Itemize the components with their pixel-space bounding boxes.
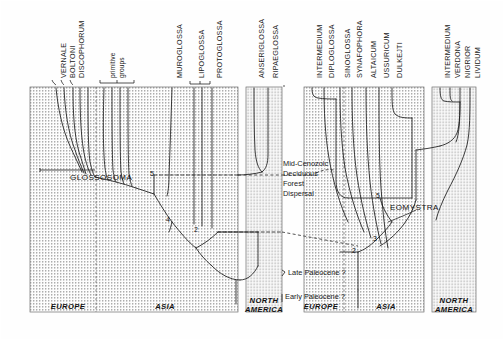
tip-label-discophorum: DISCOPHORUM bbox=[78, 21, 85, 78]
region-label-left-north-america-line1: NORTH bbox=[239, 296, 289, 305]
tip-label-primitive-groups-line2: groups bbox=[119, 57, 126, 78]
tip-label-protoglossa: PROTOGLOSSA bbox=[216, 20, 223, 78]
tip-label-altaicum: ALTAICUM bbox=[370, 41, 377, 78]
bracket-discophorum bbox=[70, 80, 73, 85]
taxon-name-eomystra: EOMYSTRA bbox=[390, 203, 439, 212]
tip-label-primitive-groups-line1: primitive bbox=[110, 53, 117, 78]
left-panel-group bbox=[30, 87, 282, 312]
node-number-left-2: 2 bbox=[194, 226, 198, 233]
tip-label-diploglossa: DIPLOGLOSSA bbox=[328, 24, 335, 78]
annotation-dispersal-line1: Mid-Cenozoic bbox=[283, 159, 328, 168]
tip-label-intermedium-eur: INTERMEDIUM bbox=[316, 25, 323, 78]
tip-label-sinoglossa: SINOGLOSSA bbox=[344, 28, 351, 78]
right-panel-group bbox=[304, 87, 476, 312]
region-label-right-europe: EUROPE bbox=[296, 302, 346, 311]
region-label-right-asia: ASIA bbox=[361, 302, 411, 311]
annotation-dispersal-line3: Forest bbox=[283, 179, 304, 188]
bracket-boltoni bbox=[61, 80, 64, 85]
region-label-left-europe: EUROPE bbox=[43, 302, 93, 311]
tip-label-ussuricum: USSURICUM bbox=[383, 32, 390, 78]
tip-label-muroglossa: MUROGLOSSA bbox=[176, 24, 183, 78]
tip-label-lipoglossa: LIPOGLOSSA bbox=[198, 30, 205, 78]
tip-label-lividum: LIVIDUM bbox=[474, 47, 481, 78]
tip-label-intermedium-na: INTERMEDIUM bbox=[444, 25, 451, 78]
epoch-label-early-paleocene: Early Paleocene ? bbox=[285, 292, 345, 301]
left-north-america-field bbox=[246, 87, 282, 312]
late-paleocene-bracket bbox=[282, 270, 285, 276]
region-label-left-north-america-line2: AMERICA bbox=[239, 305, 289, 314]
bracket-primitive bbox=[100, 80, 134, 83]
tip-label-vernale: VERNALE bbox=[60, 43, 67, 78]
node-number-left-4: 4 bbox=[166, 216, 170, 223]
left-tip-brackets bbox=[52, 80, 210, 85]
bracket-lipoglossa bbox=[190, 81, 210, 84]
taxon-name-glossosoma: GLOSSOSOMA bbox=[70, 173, 132, 182]
node-number-left-5: 5 bbox=[150, 170, 154, 177]
bracket-vernale bbox=[52, 80, 56, 85]
tip-label-boltoni: BOLTONI bbox=[69, 45, 76, 78]
tip-label-anseriglossa: ANSERIGLOSSA bbox=[258, 19, 265, 78]
region-label-right-north-america-line2: AMERICA bbox=[428, 305, 480, 314]
epoch-label-late-paleocene: Late Paleocene ? bbox=[288, 268, 346, 277]
node-number-right-5: 5 bbox=[376, 192, 380, 199]
tip-label-ripaeglossa: RIPAEGLOSSA bbox=[272, 25, 279, 78]
region-label-left-asia: ASIA bbox=[140, 302, 190, 311]
tip-label-dulkejti: DULKEJTI bbox=[396, 42, 403, 78]
figure-canvas: VERNALE BOLTONI DISCOPHORUM primitive gr… bbox=[0, 0, 504, 340]
right-europe-asia-field bbox=[304, 87, 424, 312]
annotation-dispersal-line4: Dispersal bbox=[283, 189, 314, 198]
region-label-right-north-america-line1: NORTH bbox=[428, 296, 480, 305]
annotation-dispersal-line2: Deciduous bbox=[283, 169, 318, 178]
node-number-right-3: 3 bbox=[373, 235, 377, 242]
tip-label-nigrior: NIGRIOR bbox=[464, 46, 471, 79]
tip-label-verdona: VERDONA bbox=[454, 41, 461, 78]
tip-label-synafophora: SYNAFOPHORA bbox=[356, 20, 363, 78]
node-number-right-2: 2 bbox=[352, 247, 356, 254]
